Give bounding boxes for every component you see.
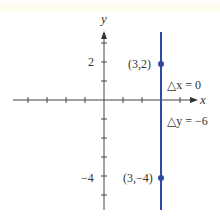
coordinate-plane: x y 2 −4 (3,2) (3,−4) △x = 0 △y = −6 (0, 0, 220, 221)
y-tick-label-2: 2 (88, 55, 94, 69)
point-label-3-2: (3,2) (128, 57, 151, 71)
point-label-3-neg4: (3,−4) (123, 171, 153, 185)
x-axis-label: x (199, 92, 206, 107)
y-tick-label-neg4: −4 (81, 171, 94, 185)
x-axis-arrow-icon (190, 97, 198, 103)
delta-x-annotation: △x = 0 (167, 78, 201, 92)
y-axis-label: y (99, 11, 107, 26)
delta-y-annotation: △y = −6 (167, 114, 208, 128)
point-3-2 (158, 61, 164, 67)
y-axis-arrow-icon (101, 31, 107, 39)
y-axis (101, 36, 107, 210)
point-3-neg4 (158, 175, 164, 181)
